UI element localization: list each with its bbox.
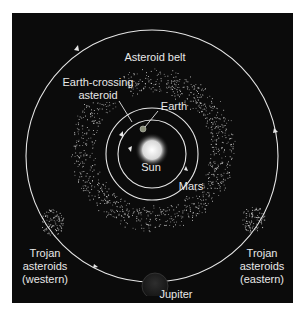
- asteroid-dot: [187, 99, 188, 100]
- asteroid-dot: [204, 104, 205, 105]
- asteroid-dot: [99, 172, 100, 173]
- asteroid-dot: [86, 143, 87, 144]
- asteroid-dot: [125, 227, 126, 228]
- asteroid-dot: [212, 184, 213, 185]
- asteroid-dot: [82, 126, 83, 127]
- asteroid-dot: [181, 218, 182, 219]
- asteroid-dot: [78, 166, 79, 167]
- asteroid-dot: [203, 200, 204, 201]
- asteroid-dot: [143, 209, 144, 210]
- asteroid-dot: [91, 167, 92, 168]
- asteroid-dot: [108, 106, 109, 107]
- asteroid-dot: [89, 192, 90, 193]
- asteroid-dot: [211, 103, 212, 104]
- asteroid-dot: [97, 184, 98, 185]
- asteroid-dot: [105, 188, 106, 189]
- asteroid-dot: [128, 211, 129, 212]
- asteroid-dot: [222, 125, 223, 126]
- asteroid-dot: [228, 172, 229, 173]
- asteroid-dot: [85, 182, 86, 183]
- asteroid-dot: [234, 153, 235, 154]
- asteroid-dot: [87, 119, 88, 120]
- asteroid-dot: [163, 213, 164, 214]
- asteroid-dot: [152, 211, 153, 212]
- asteroid-dot: [45, 229, 46, 230]
- asteroid-dot: [74, 146, 75, 147]
- asteroid-dot: [113, 194, 114, 195]
- asteroid-dot: [196, 101, 197, 102]
- label-trojan-west-line3: (western): [22, 273, 68, 285]
- asteroid-dot: [219, 132, 220, 133]
- asteroid-dot: [86, 133, 87, 134]
- asteroid-dot: [194, 86, 195, 87]
- asteroid-dot: [92, 115, 93, 116]
- asteroid-dot: [107, 215, 108, 216]
- asteroid-dot: [128, 74, 129, 75]
- asteroid-dot: [235, 141, 236, 142]
- asteroid-dot: [44, 231, 45, 232]
- asteroid-dot: [77, 128, 78, 129]
- asteroid-dot: [77, 145, 78, 146]
- asteroid-dot: [209, 163, 210, 164]
- asteroid-dot: [115, 203, 116, 204]
- asteroid-dot: [222, 175, 223, 176]
- asteroid-dot: [97, 113, 98, 114]
- asteroid-dot: [82, 129, 83, 130]
- asteroid-dot: [155, 215, 156, 216]
- asteroid-dot: [233, 148, 234, 149]
- asteroid-dot: [191, 101, 192, 102]
- asteroid-dot: [193, 101, 194, 102]
- asteroid-dot: [83, 138, 84, 139]
- asteroid-dot: [193, 89, 194, 90]
- asteroid-dot: [224, 149, 225, 150]
- asteroid-dot: [190, 211, 191, 212]
- asteroid-dot: [151, 89, 152, 90]
- asteroid-dot: [134, 74, 135, 75]
- asteroid-dot: [99, 121, 100, 122]
- asteroid-dot: [184, 210, 185, 211]
- asteroid-dot: [218, 195, 219, 196]
- asteroid-dot: [181, 93, 182, 94]
- asteroid-dot: [108, 195, 109, 196]
- asteroid-dot: [94, 143, 95, 144]
- asteroid-dot: [57, 215, 58, 216]
- asteroid-dot: [227, 164, 228, 165]
- asteroid-dot: [216, 141, 217, 142]
- asteroid-dot: [114, 193, 115, 194]
- asteroid-dot: [221, 148, 222, 149]
- asteroid-dot: [49, 209, 50, 210]
- asteroid-dot: [260, 208, 261, 209]
- asteroid-dot: [61, 217, 62, 218]
- asteroid-dot: [111, 211, 112, 212]
- asteroid-dot: [211, 132, 212, 133]
- asteroid-dot: [215, 163, 216, 164]
- asteroid-dot: [205, 89, 206, 90]
- asteroid-dot: [143, 88, 144, 89]
- asteroid-dot: [199, 112, 200, 113]
- asteroid-dot: [257, 215, 258, 216]
- asteroid-dot: [126, 205, 127, 206]
- asteroid-dot: [116, 210, 117, 211]
- asteroid-dot: [254, 210, 255, 211]
- asteroid-dot: [120, 201, 121, 202]
- asteroid-dot: [74, 171, 75, 172]
- asteroid-dot: [112, 210, 113, 211]
- asteroid-dot: [112, 195, 113, 196]
- asteroid-dot: [201, 105, 202, 106]
- asteroid-dot: [243, 224, 244, 225]
- asteroid-dot: [79, 140, 80, 141]
- asteroid-dot: [191, 92, 192, 93]
- asteroid-dot: [98, 103, 99, 104]
- asteroid-dot: [100, 188, 101, 189]
- asteroid-dot: [199, 102, 200, 103]
- asteroid-dot: [210, 162, 211, 163]
- asteroid-dot: [147, 211, 148, 212]
- asteroid-dot: [262, 227, 263, 228]
- asteroid-dot: [60, 226, 61, 227]
- asteroid-dot: [160, 89, 161, 90]
- asteroid-dot: [205, 208, 206, 209]
- asteroid-dot: [248, 225, 249, 226]
- asteroid-dot: [249, 226, 250, 227]
- asteroid-dot: [209, 196, 210, 197]
- asteroid-dot: [203, 90, 204, 91]
